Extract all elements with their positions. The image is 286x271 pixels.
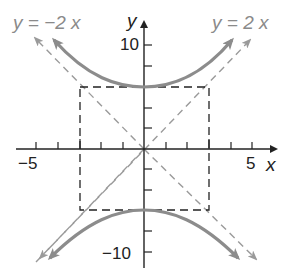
y-min-tick-label: −10 [102,245,131,262]
hyperbola-graph [0,0,286,271]
asymptote-y-neg2x [35,38,144,149]
hyperbola-lower-branch [144,210,238,258]
x-axis-label: x [266,155,276,174]
x-min-tick-label: −5 [18,155,37,172]
asymptote-pos-label: y = 2 x [212,13,269,32]
x-max-tick-label: 5 [246,155,255,172]
asymptote-neg-label: y = −2 x [13,13,81,32]
y-axis-label: y [127,11,137,30]
hyperbola-upper-branch [144,40,232,87]
y-max-tick-label: 10 [120,36,139,53]
